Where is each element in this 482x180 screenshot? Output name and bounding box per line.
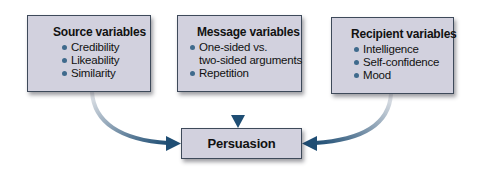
persuasion-label: Persuasion: [182, 136, 301, 151]
source-variables-box: Source variables Credibility Likeability…: [27, 15, 151, 92]
list-item: Self-confidence: [353, 56, 457, 69]
recipient-variables-list: Intelligence Self-confidence Mood: [353, 43, 457, 82]
list-item: Intelligence: [353, 43, 457, 56]
bullet-icon: [62, 45, 67, 50]
message-variables-list: One-sided vs.two-sided arguments Repetit…: [189, 41, 302, 80]
persuasion-box: Persuasion: [181, 128, 302, 159]
bullet-icon: [62, 58, 67, 63]
recipient-variables-title: Recipient variables: [351, 27, 457, 41]
bullet-icon: [354, 47, 359, 52]
list-item: Mood: [353, 69, 457, 82]
list-item: Credibility: [61, 41, 146, 54]
bullet-icon: [190, 45, 195, 50]
list-item: Repetition: [189, 67, 302, 80]
list-item: Likeability: [61, 54, 146, 67]
source-variables-list: Credibility Likeability Similarity: [61, 41, 146, 80]
arrow-message-to-persuasion: [231, 92, 245, 128]
list-item: One-sided vs.two-sided arguments: [189, 41, 302, 67]
message-variables-title: Message variables: [189, 25, 302, 39]
bullet-icon: [190, 71, 195, 76]
bullet-icon: [354, 73, 359, 78]
bullet-icon: [62, 71, 67, 76]
arrow-recipient-to-persuasion: [302, 94, 391, 151]
arrow-source-to-persuasion: [92, 92, 181, 151]
message-variables-box: Message variables One-sided vs.two-sided…: [177, 15, 302, 92]
source-variables-title: Source variables: [53, 25, 146, 39]
recipient-variables-box: Recipient variables Intelligence Self-co…: [331, 17, 454, 94]
list-item: Similarity: [61, 67, 146, 80]
bullet-icon: [354, 60, 359, 65]
